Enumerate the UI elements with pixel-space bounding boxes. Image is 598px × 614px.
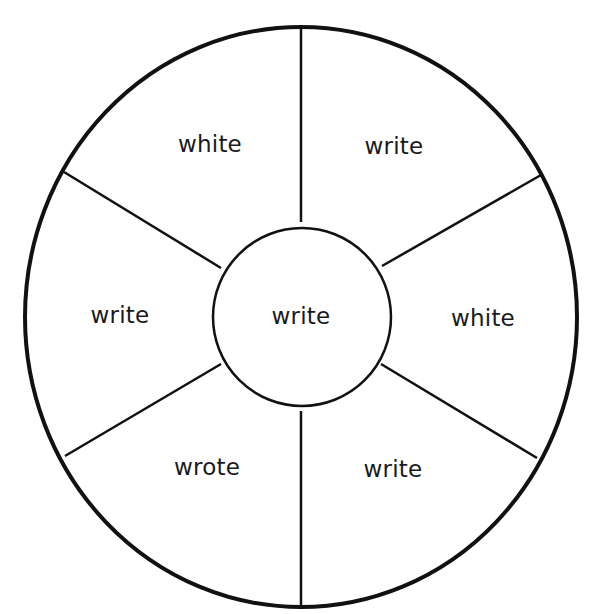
segment-left-word: write: [91, 302, 150, 328]
segment-top-left-word: white: [178, 131, 242, 157]
segment-top-right-word: write: [365, 133, 424, 159]
segment-bottom-right-word: write: [364, 456, 423, 482]
center-word: write: [272, 303, 331, 329]
segment-bottom-left-word: wrote: [174, 454, 240, 480]
segment-right-word: white: [451, 305, 515, 331]
